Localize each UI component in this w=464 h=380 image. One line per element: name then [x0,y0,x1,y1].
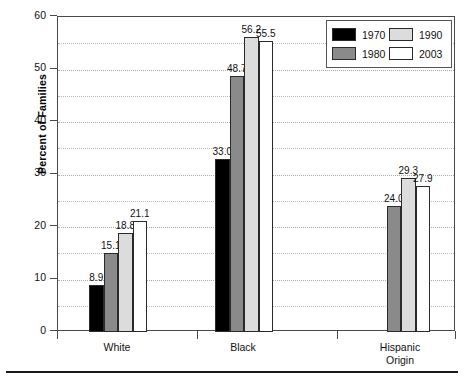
legend-swatch-icon [332,47,356,60]
x-tick-mark [455,331,456,339]
y-tick-mark [50,278,57,279]
legend-label: 1980 [362,48,385,60]
bar [401,178,416,332]
legend-item[interactable]: 1990 [389,28,446,41]
bar [230,76,245,332]
bar [416,186,431,332]
y-tick-label: 0 [40,324,46,336]
legend-item[interactable]: 2003 [389,47,446,60]
bar [259,41,274,332]
y-tick-label: 60 [34,9,46,21]
x-axis-group-label: HispanicOrigin [340,341,460,367]
x-axis-group-label: White [57,341,177,354]
x-group-label-line: Black [183,341,303,354]
legend-item[interactable]: 1980 [332,47,389,60]
x-tick-mark [337,331,338,339]
bar-chart: Percent of Families 0102030405060 8.915.… [0,0,464,380]
legend-swatch-icon [389,47,413,60]
bar [104,253,119,332]
legend-label: 2003 [419,48,442,60]
bar-value-label: 21.1 [117,208,163,219]
x-tick-mark [57,331,58,339]
bottom-divider [6,371,458,373]
legend-swatch-icon [389,28,413,41]
bar [244,37,259,332]
bar-value-label: 55.5 [243,28,289,39]
x-axis-group-label: Black [183,341,303,354]
x-tick-mark [197,331,198,339]
legend-label: 1970 [362,29,385,41]
x-group-label-line: Hispanic [340,341,460,354]
bar [387,206,402,332]
bar [215,159,230,332]
y-tick-mark [50,68,57,69]
y-tick-label: 10 [34,271,46,283]
y-tick-mark [50,120,57,121]
y-tick-mark [50,330,57,331]
legend-item[interactable]: 1970 [332,28,389,41]
y-tick-label: 40 [34,114,46,126]
bar-value-label: 27.9 [400,173,446,184]
y-tick-mark [50,15,57,16]
legend-label: 1990 [419,29,442,41]
y-tick-label: 20 [34,219,46,231]
y-tick-mark [50,173,57,174]
y-tick-label: 50 [34,61,46,73]
y-tick-label: 30 [34,166,46,178]
x-group-label-line: White [57,341,177,354]
bar [133,221,148,332]
legend: 1970199019802003 [326,20,452,68]
y-tick-mark [50,225,57,226]
bar [89,285,104,332]
bar [118,233,133,332]
x-group-label-line: Origin [340,354,460,367]
legend-swatch-icon [332,28,356,41]
